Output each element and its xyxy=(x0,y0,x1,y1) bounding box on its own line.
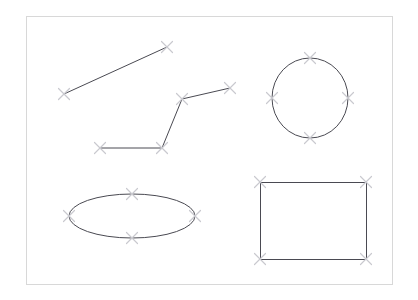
x-cross-icon[interactable] xyxy=(64,211,75,222)
drawing-frame xyxy=(27,17,393,285)
line-segment[interactable] xyxy=(64,47,167,94)
x-cross-icon[interactable] xyxy=(162,42,173,53)
x-cross-icon[interactable] xyxy=(225,83,236,94)
polyline-path[interactable] xyxy=(100,88,230,148)
shapes-layer xyxy=(64,47,367,260)
x-cross-icon[interactable] xyxy=(177,94,188,105)
shapes-svg[interactable] xyxy=(0,0,418,300)
rectangle-shape[interactable] xyxy=(261,183,367,260)
x-cross-icon[interactable] xyxy=(59,89,70,100)
circle-shape[interactable] xyxy=(272,58,348,138)
drawing-canvas[interactable] xyxy=(0,0,418,300)
ellipse-shape[interactable] xyxy=(69,194,195,238)
x-cross-icon[interactable] xyxy=(190,211,201,222)
